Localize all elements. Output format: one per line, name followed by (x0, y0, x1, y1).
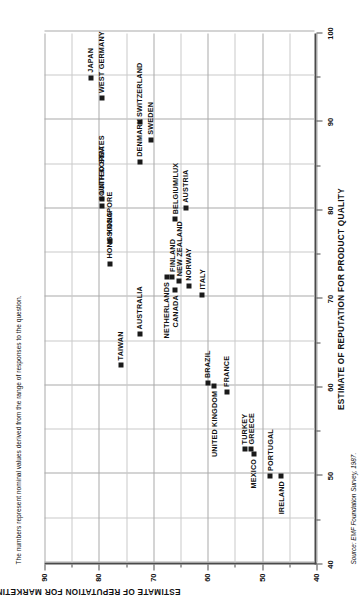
data-point-label: DENMARK (136, 118, 143, 156)
data-point-label: ITALY (198, 269, 205, 290)
data-point-marker (186, 283, 191, 288)
x-axis-tick (316, 298, 322, 299)
data-point-label: MEXICO (250, 458, 257, 488)
gridline-horizontal (98, 33, 99, 562)
gridline-horizontal (207, 33, 208, 562)
data-point-marker (248, 446, 253, 451)
data-point-label: SWEDEN (146, 101, 153, 134)
y-axis-tick (153, 564, 154, 570)
data-point-marker (118, 362, 123, 367)
gridline-vertical (44, 517, 314, 518)
data-point-marker (183, 205, 188, 210)
data-point-label: AUSTRALIA (136, 286, 143, 329)
y-axis-tick-label: 40 (312, 573, 320, 581)
y-axis-tick (44, 564, 45, 570)
y-axis-tick-label: 90 (40, 573, 48, 581)
gridline-horizontal (289, 33, 290, 562)
x-axis-tick (316, 32, 322, 33)
gridline-vertical (44, 561, 314, 562)
screenshot-root: The numbers represent nominal values der… (0, 0, 364, 611)
y-axis-tick-label: 50 (258, 573, 266, 581)
gridline-horizontal (126, 33, 127, 562)
data-point-marker (172, 287, 177, 292)
data-point-label: NORWAY (185, 247, 192, 280)
gridline-horizontal (180, 33, 181, 562)
data-point-marker (99, 203, 104, 208)
data-point-label: BRAZIL (204, 350, 211, 378)
data-point-label: UNITED KINGDOM (210, 390, 217, 456)
data-point-marker (199, 292, 204, 297)
data-point-marker (242, 446, 247, 451)
x-axis-tick (316, 475, 322, 476)
x-axis-tick (316, 430, 320, 431)
data-point-marker (164, 274, 169, 279)
gridline-vertical (44, 74, 314, 75)
data-point-marker (267, 473, 272, 478)
y-axis-tick-label: 70 (149, 573, 157, 581)
data-point-marker (137, 331, 142, 336)
gridline-vertical (44, 340, 314, 341)
gridline-horizontal (44, 33, 45, 562)
x-axis-tick-label: 70 (326, 294, 334, 302)
data-point-marker (88, 75, 93, 80)
data-point-label: CANADA (171, 295, 178, 327)
data-point-label: PORTUGAL (266, 429, 273, 471)
data-point-marker (278, 473, 283, 478)
y-axis-tick (234, 564, 235, 568)
data-point-label: TAIWAN (117, 331, 124, 360)
x-axis-tick (316, 342, 320, 343)
x-axis-tick-label: 90 (326, 117, 334, 125)
y-axis-tick (316, 564, 317, 570)
data-point-label: FRANCE (223, 355, 230, 386)
y-axis-tick (71, 564, 72, 568)
data-point-marker (169, 274, 174, 279)
figure-note: The numbers represent nominal values der… (14, 295, 21, 564)
data-point-marker (107, 261, 112, 266)
data-point-label: SOUTH KOREA (98, 145, 105, 200)
gridline-vertical (44, 473, 314, 474)
x-axis-tick (316, 121, 322, 122)
x-axis-tick (316, 253, 320, 254)
x-axis-title: ESTIMATE OF REPUTATION FOR PRODUCT QUALI… (336, 33, 345, 564)
x-axis-tick (316, 519, 320, 520)
data-point-label: NETHERLANDS (163, 281, 170, 338)
data-point-label: BELGIUM/LUX (171, 162, 178, 214)
data-point-label: GREECE (247, 412, 254, 444)
x-axis-tick (316, 76, 320, 77)
plot-area (44, 33, 316, 564)
data-point-label: HONG KONG (106, 211, 113, 258)
y-axis-tick (126, 564, 127, 568)
gridline-vertical (44, 119, 314, 120)
y-axis-title: ESTIMATE OF REPUTATION FOR MARKETING PUS… (0, 586, 180, 595)
data-point-label: NEW ZEALAND (175, 221, 182, 276)
y-axis-tick-label: 80 (95, 573, 103, 581)
data-point-marker (224, 389, 229, 394)
scatter-figure: The numbers represent nominal values der… (0, 0, 364, 611)
x-axis-tick-label: 50 (326, 471, 334, 479)
x-axis-tick (316, 165, 320, 166)
gridline-horizontal (234, 33, 235, 562)
data-point-label: JAPAN (87, 47, 94, 72)
y-axis-tick-label: 60 (203, 573, 211, 581)
y-axis-tick (289, 564, 290, 568)
data-point-label: WEST GERMANY (98, 31, 105, 93)
gridline-vertical (44, 30, 314, 31)
data-point-marker (148, 137, 153, 142)
data-point-label: AUSTRIA (182, 169, 189, 202)
x-axis-tick (316, 386, 322, 387)
x-axis-tick-label: 60 (326, 383, 334, 391)
x-axis-tick-label: 80 (326, 206, 334, 214)
data-point-label: SWITZERLAND (136, 62, 143, 117)
gridline-horizontal (71, 33, 72, 562)
data-point-marker (205, 380, 210, 385)
y-axis-tick (207, 564, 208, 570)
gridline-horizontal (262, 33, 263, 562)
y-axis-tick (98, 564, 99, 570)
gridline-vertical (44, 384, 314, 385)
data-point-marker (137, 159, 142, 164)
x-axis-tick (316, 209, 322, 210)
data-point-marker (176, 278, 181, 283)
data-point-marker (211, 383, 216, 388)
x-axis-tick-label: 40 (326, 560, 334, 568)
data-point-marker (99, 95, 104, 100)
